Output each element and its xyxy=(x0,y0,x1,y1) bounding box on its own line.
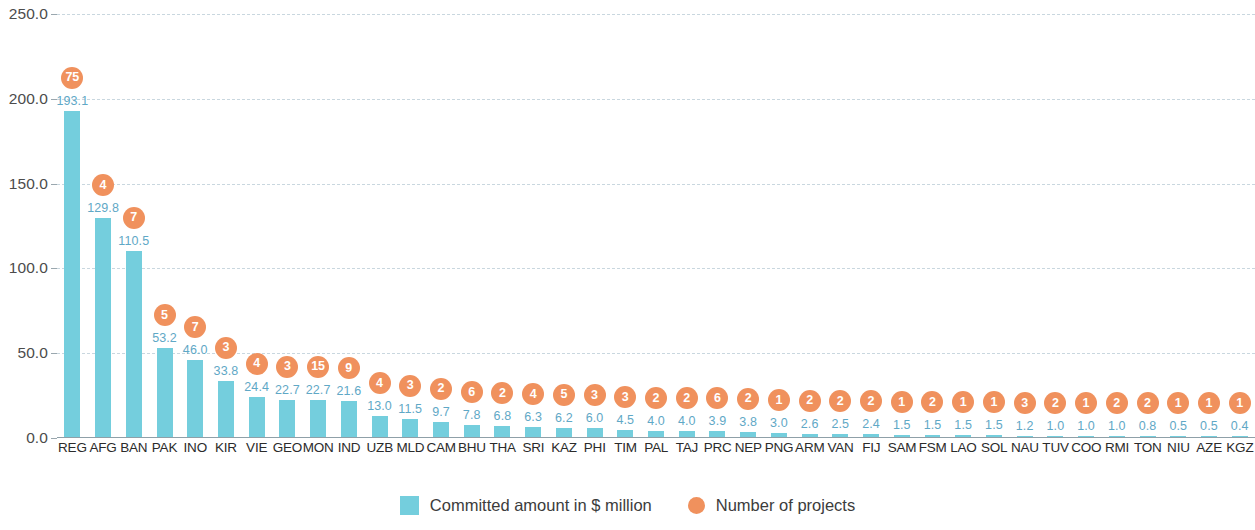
project-count-bubble[interactable]: 5 xyxy=(154,304,176,326)
project-count-bubble[interactable]: 2 xyxy=(921,391,943,413)
bar-column[interactable]: 2.52 xyxy=(825,14,856,438)
bar-column[interactable]: 46.07 xyxy=(180,14,211,438)
project-count-bubble[interactable]: 6 xyxy=(461,381,483,403)
bar-column[interactable]: 7.86 xyxy=(456,14,487,438)
project-count-bubble[interactable]: 6 xyxy=(706,387,728,409)
bar-column[interactable]: 22.715 xyxy=(303,14,334,438)
bar-column[interactable]: 24.44 xyxy=(241,14,272,438)
bar-column[interactable]: 3.01 xyxy=(764,14,795,438)
project-count-bubble[interactable]: 7 xyxy=(184,316,206,338)
project-count-bubble[interactable]: 2 xyxy=(1137,392,1159,414)
bar-column[interactable]: 9.72 xyxy=(426,14,457,438)
project-count-bubble[interactable]: 2 xyxy=(430,378,452,400)
x-axis-category-label: PAL xyxy=(641,440,672,455)
bar-column[interactable]: 3.82 xyxy=(733,14,764,438)
x-axis-category-label: GEO xyxy=(272,440,303,455)
project-count-bubble[interactable]: 3 xyxy=(276,356,298,378)
bar-column[interactable]: 0.41 xyxy=(1224,14,1255,438)
bar-column[interactable]: 53.25 xyxy=(149,14,180,438)
bar-chart: 0.050.0100.0150.0200.0250.0 193.175129.8… xyxy=(0,0,1255,530)
project-count-bubble[interactable]: 3 xyxy=(215,337,237,359)
project-count-bubble[interactable]: 1 xyxy=(983,391,1005,413)
bar-column[interactable]: 4.02 xyxy=(641,14,672,438)
project-count-bubble[interactable]: 2 xyxy=(1106,392,1128,414)
project-count-bubble[interactable]: 4 xyxy=(522,383,544,405)
project-count-bubble[interactable]: 2 xyxy=(491,382,513,404)
bar-column[interactable]: 1.02 xyxy=(1040,14,1071,438)
bar-column[interactable]: 0.82 xyxy=(1132,14,1163,438)
project-count-bubble[interactable]: 1 xyxy=(1167,392,1189,414)
project-count-bubble[interactable]: 2 xyxy=(860,390,882,412)
bar[interactable] xyxy=(157,348,173,438)
bar[interactable] xyxy=(126,251,142,438)
project-count-bubble[interactable]: 1 xyxy=(768,389,790,411)
project-count-bubble[interactable]: 2 xyxy=(799,390,821,412)
bar-column[interactable]: 1.51 xyxy=(886,14,917,438)
bar-value-label: 4.0 xyxy=(647,414,665,428)
project-count-bubble[interactable]: 7 xyxy=(123,207,145,229)
bar[interactable] xyxy=(433,422,449,438)
bar-column[interactable]: 193.175 xyxy=(57,14,88,438)
project-count-bubble[interactable]: 1 xyxy=(891,391,913,413)
project-count-bubble[interactable]: 1 xyxy=(1198,392,1220,414)
bar-column[interactable]: 1.01 xyxy=(1071,14,1102,438)
y-axis-tick-label: 0.0 xyxy=(26,429,48,447)
project-count-bubble[interactable]: 4 xyxy=(369,372,391,394)
bar[interactable] xyxy=(402,419,418,439)
legend-item[interactable]: Committed amount in $ million xyxy=(400,496,652,515)
bar-column[interactable]: 1.51 xyxy=(948,14,979,438)
bar-column[interactable]: 2.42 xyxy=(856,14,887,438)
project-count-bubble[interactable]: 4 xyxy=(246,353,268,375)
project-count-bubble[interactable]: 15 xyxy=(307,356,329,378)
bar[interactable] xyxy=(218,381,234,438)
bar-column[interactable]: 13.04 xyxy=(364,14,395,438)
project-count-bubble[interactable]: 75 xyxy=(61,67,83,89)
bar-column[interactable]: 6.82 xyxy=(487,14,518,438)
x-axis-category-label: VAN xyxy=(825,440,856,455)
project-count-bubble[interactable]: 2 xyxy=(645,387,667,409)
project-count-bubble[interactable]: 2 xyxy=(676,387,698,409)
project-count-bubble[interactable]: 3 xyxy=(399,375,421,397)
bar[interactable] xyxy=(187,360,203,438)
project-count-bubble[interactable]: 2 xyxy=(829,390,851,412)
project-count-bubble[interactable]: 3 xyxy=(584,384,606,406)
bar-column[interactable]: 6.34 xyxy=(518,14,549,438)
bar[interactable] xyxy=(279,400,295,438)
bar-column[interactable]: 21.69 xyxy=(333,14,364,438)
bar[interactable] xyxy=(64,111,80,438)
bar-column[interactable]: 4.02 xyxy=(671,14,702,438)
project-count-bubble[interactable]: 5 xyxy=(553,384,575,406)
bar-column[interactable]: 3.96 xyxy=(702,14,733,438)
bar-column[interactable]: 1.51 xyxy=(979,14,1010,438)
project-count-bubble[interactable]: 2 xyxy=(1044,392,1066,414)
bar[interactable] xyxy=(372,416,388,438)
project-count-bubble[interactable]: 3 xyxy=(614,386,636,408)
bar[interactable] xyxy=(341,401,357,438)
project-count-bubble[interactable]: 1 xyxy=(952,391,974,413)
bar[interactable] xyxy=(310,400,326,438)
legend-item[interactable]: Number of projects xyxy=(688,496,855,515)
bar-column[interactable]: 6.25 xyxy=(549,14,580,438)
x-axis-category-label: KGZ xyxy=(1225,440,1255,455)
bar-column[interactable]: 0.51 xyxy=(1194,14,1225,438)
bar-column[interactable]: 110.57 xyxy=(118,14,149,438)
bar-column[interactable]: 33.83 xyxy=(211,14,242,438)
bar[interactable] xyxy=(95,218,111,438)
bar-column[interactable]: 1.52 xyxy=(917,14,948,438)
bar-column[interactable]: 1.02 xyxy=(1101,14,1132,438)
bar-column[interactable]: 22.73 xyxy=(272,14,303,438)
project-count-bubble[interactable]: 9 xyxy=(338,357,360,379)
project-count-bubble[interactable]: 4 xyxy=(92,174,114,196)
project-count-bubble[interactable]: 1 xyxy=(1229,392,1251,414)
bar-column[interactable]: 129.84 xyxy=(88,14,119,438)
bar-column[interactable]: 11.53 xyxy=(395,14,426,438)
bar-column[interactable]: 0.51 xyxy=(1163,14,1194,438)
bar[interactable] xyxy=(249,397,265,438)
bar-column[interactable]: 2.62 xyxy=(794,14,825,438)
project-count-bubble[interactable]: 2 xyxy=(737,388,759,410)
bar-column[interactable]: 4.53 xyxy=(610,14,641,438)
project-count-bubble[interactable]: 3 xyxy=(1014,392,1036,414)
bar-column[interactable]: 1.23 xyxy=(1009,14,1040,438)
bar-column[interactable]: 6.03 xyxy=(579,14,610,438)
project-count-bubble[interactable]: 1 xyxy=(1075,392,1097,414)
